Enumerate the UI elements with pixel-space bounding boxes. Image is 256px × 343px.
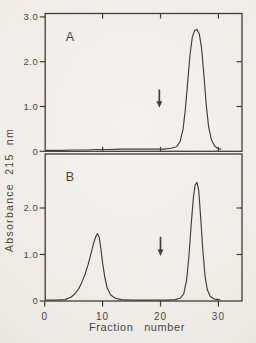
panel-label-b: B [66,170,74,184]
chromatogram-chart: 01.02.03.0A01.02.00102030BFraction numbe… [0,0,256,343]
y-axis-tick-label: 2.0 [23,56,38,67]
x-axis-tick-label: 0 [41,311,48,322]
x-axis-tick-label: 30 [212,311,225,322]
y-axis-tick-label: 0 [32,295,38,306]
y-axis-title: Absorbance 215 nm [3,128,15,252]
absorbance-trace-b [46,182,219,300]
scanned-figure: 01.02.03.0A01.02.00102030BFraction numbe… [0,0,256,343]
y-axis-tick-label: 0 [32,146,38,157]
x-axis-tick-label: 10 [96,311,109,322]
absorbance-trace-a [46,29,220,150]
x-axis-tick-label: 20 [154,311,167,322]
y-axis-tick-label: 1.0 [23,249,38,260]
y-axis-tick-label: 3.0 [23,11,38,22]
injection-arrow-head [156,101,162,108]
y-axis-tick-label: 2.0 [23,202,38,213]
panel-a-frame [45,14,242,152]
x-axis-title: Fraction number [89,321,185,333]
y-axis-tick-label: 1.0 [23,101,38,112]
panel-label-a: A [66,30,75,44]
panel-b-frame [45,154,242,301]
injection-arrow-head [158,249,164,256]
